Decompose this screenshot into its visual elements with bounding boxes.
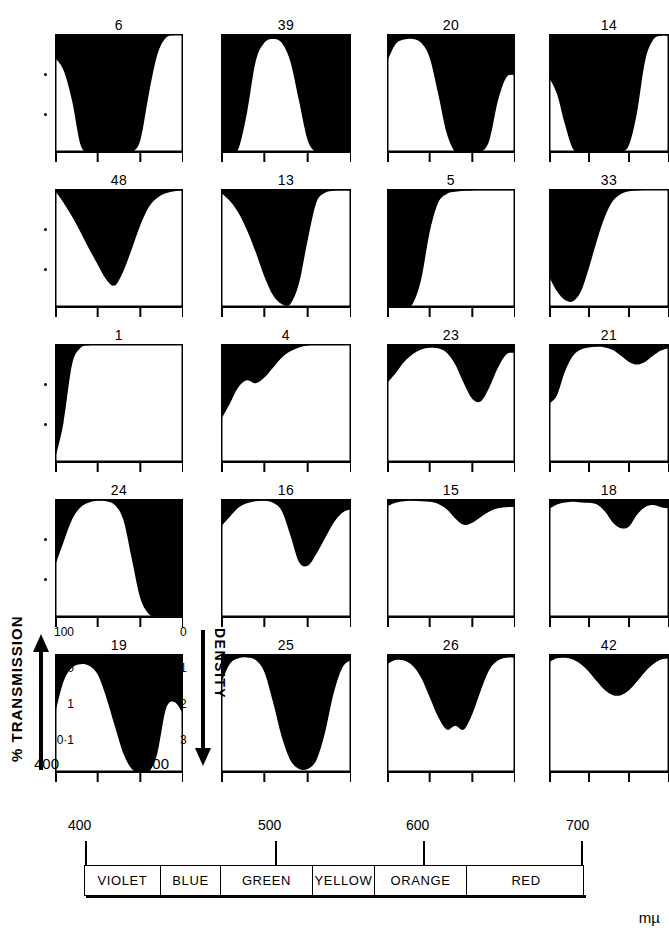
x-tick-700: 700 — [144, 755, 169, 772]
y-axis-title-density: DENSITY — [212, 628, 228, 748]
transmission-plot — [221, 189, 351, 321]
spectrum-band-yellow: YELLOW — [313, 866, 375, 895]
filter-number-label: 1 — [55, 328, 183, 342]
filter-number-label: 26 — [387, 638, 515, 652]
filter-panel: 42 — [549, 638, 669, 786]
filter-number-label: 24 — [55, 483, 183, 497]
visible-spectrum-scale: 400 500 600 700 VIOLETBLUEGREENYELLOWORA… — [0, 805, 669, 940]
transmission-plot — [387, 499, 515, 631]
spectrum-label-400: 400 — [68, 817, 91, 833]
y-axis-tick-dots — [44, 189, 52, 307]
filter-panel: 48 — [55, 173, 183, 321]
filter-number-label: 18 — [549, 483, 669, 497]
transmission-plot — [55, 34, 183, 166]
transmission-plot — [55, 344, 183, 476]
filter-panel: 24 — [55, 483, 183, 631]
filter-panel: 4 — [221, 328, 351, 476]
filter-panel: 16 — [221, 483, 351, 631]
filter-number-label: 20 — [387, 18, 515, 32]
transmission-area — [55, 345, 183, 462]
filter-number-label: 16 — [221, 483, 351, 497]
filter-panel: 39 — [221, 18, 351, 166]
spectrum-unit-label: mµ — [639, 909, 660, 926]
density-tick-2: 2 — [180, 697, 187, 711]
filter-panel: 6 — [55, 18, 183, 166]
filter-panel: 33 — [549, 173, 669, 321]
density-tick-0: 0 — [180, 625, 187, 639]
transmission-plot — [55, 499, 183, 631]
transmission-plot — [55, 189, 183, 321]
x-tick-400: 400 — [34, 755, 59, 772]
transmission-plot — [387, 344, 515, 476]
y-axis-tick-dots — [44, 34, 52, 152]
y-axis-tick-dots — [44, 344, 52, 462]
filter-number-label: 4 — [221, 328, 351, 342]
transmission-area — [549, 502, 669, 617]
transmission-plot — [549, 499, 669, 631]
filter-number-label: 5 — [387, 173, 515, 187]
right-axis-annotation: 0 1 2 3 DENSITY — [178, 624, 258, 784]
color-band-bar-shadow — [86, 895, 586, 898]
spectrum-label-600: 600 — [406, 817, 429, 833]
filter-panel: 5 — [387, 173, 515, 321]
y-tick-100: 100 — [44, 625, 74, 639]
filter-panel: 26 — [387, 638, 515, 786]
y-tick-1: 1 — [44, 697, 74, 711]
filter-panel: 15 — [387, 483, 515, 631]
y-axis-title-transmission: % TRANSMISSION — [8, 632, 25, 762]
y-tick-10: 10 — [44, 661, 74, 675]
transmission-plot — [387, 34, 515, 166]
filter-panel: 14 — [549, 18, 669, 166]
transmission-plot — [549, 34, 669, 166]
filter-number-label: 23 — [387, 328, 515, 342]
transmission-area — [387, 501, 515, 617]
spectral-transmission-figure: 639201448135331423212416151819252642 % T… — [0, 0, 669, 940]
transmission-plot — [221, 499, 351, 631]
spectrum-label-700: 700 — [566, 817, 589, 833]
spectrum-band-orange: ORANGE — [375, 866, 467, 895]
filter-panel: 13 — [221, 173, 351, 321]
density-tick-3: 3 — [180, 733, 187, 747]
filter-number-label: 6 — [55, 18, 183, 32]
filter-panel: 21 — [549, 328, 669, 476]
filter-number-label: 15 — [387, 483, 515, 497]
spectrum-band-violet: VIOLET — [85, 866, 161, 895]
filter-number-label: 33 — [549, 173, 669, 187]
y-tick-0-1: 0·1 — [40, 733, 74, 747]
transmission-plot — [549, 654, 669, 786]
filter-number-label: 39 — [221, 18, 351, 32]
filter-panel: 23 — [387, 328, 515, 476]
spectrum-band-red: RED — [467, 866, 585, 895]
left-axis-annotation: % TRANSMISSION 100 10 1 0·1 — [0, 624, 120, 784]
transmission-plot — [387, 654, 515, 786]
filter-number-label: 13 — [221, 173, 351, 187]
color-band-bar: VIOLETBLUEGREENYELLOWORANGERED — [84, 865, 584, 896]
transmission-plot — [221, 34, 351, 166]
spectrum-band-green: GREEN — [221, 866, 313, 895]
transmission-plot — [549, 344, 669, 476]
transmission-plot — [549, 189, 669, 321]
spectrum-band-blue: BLUE — [161, 866, 221, 895]
density-tick-1: 1 — [180, 661, 187, 675]
transmission-plot — [387, 189, 515, 321]
spectrum-label-500: 500 — [258, 817, 281, 833]
y-axis-tick-dots — [44, 499, 52, 617]
filter-number-label: 21 — [549, 328, 669, 342]
filter-panel: 18 — [549, 483, 669, 631]
transmission-plot — [221, 344, 351, 476]
filter-number-label: 42 — [549, 638, 669, 652]
filter-panel: 20 — [387, 18, 515, 166]
filter-number-label: 14 — [549, 18, 669, 32]
filter-panel: 1 — [55, 328, 183, 476]
density-arrow-icon — [192, 628, 214, 768]
filter-number-label: 48 — [55, 173, 183, 187]
